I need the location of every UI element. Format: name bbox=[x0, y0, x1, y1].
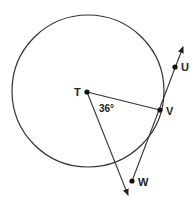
geometry-diagram: T V U W 36° bbox=[0, 0, 195, 211]
label-v: V bbox=[166, 105, 174, 117]
point-v bbox=[157, 107, 162, 112]
label-u: U bbox=[181, 61, 189, 73]
point-u bbox=[172, 64, 177, 69]
point-t bbox=[84, 89, 89, 94]
segment-tv bbox=[87, 92, 160, 110]
angle-label: 36° bbox=[99, 103, 114, 114]
label-w: W bbox=[138, 176, 149, 188]
point-w bbox=[129, 178, 134, 183]
label-t: T bbox=[74, 86, 81, 98]
